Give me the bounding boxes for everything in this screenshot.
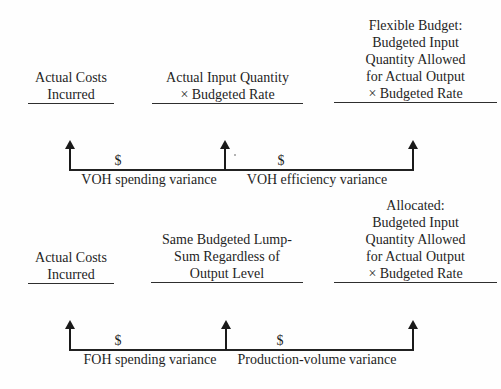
block-line: Incurred (28, 266, 114, 283)
block-line: Sum Regardless of (151, 248, 303, 265)
block-line: Allocated: (334, 197, 497, 214)
arrow-stem (412, 329, 414, 350)
block-line: × Budgeted Rate (334, 85, 497, 102)
block-line: Incurred (28, 86, 114, 103)
arrowhead (408, 320, 418, 329)
block-line: Actual Costs (28, 249, 114, 266)
actual-costs-block-foh: Actual Costs Incurred (28, 249, 114, 284)
block-line: for Actual Output (334, 68, 497, 85)
voh-bracket-line (69, 169, 414, 171)
flexible-budget-block: Flexible Budget: Budgeted Input Quantity… (334, 17, 497, 103)
arrow-stem (225, 329, 227, 350)
block-line: Quantity Allowed (334, 231, 497, 248)
dollar-sign: $ (115, 153, 122, 168)
dollar-sign: $ (277, 333, 284, 348)
block-line: × Budgeted Rate (334, 265, 497, 282)
up-arrow-icon (221, 320, 231, 350)
arrow-stem (412, 149, 414, 170)
production-volume-variance-label: Production-volume variance (237, 352, 396, 368)
block-line: Actual Costs (28, 69, 114, 86)
actual-input-quantity-block: Actual Input Quantity × Budgeted Rate (152, 69, 303, 104)
actual-costs-block-voh: Actual Costs Incurred (28, 69, 114, 104)
dollar-sign: $ (278, 153, 285, 168)
block-line: Budgeted Input (334, 214, 497, 231)
block-line: Same Budgeted Lump- (151, 231, 303, 248)
block-line: Actual Input Quantity (152, 69, 303, 86)
scan-speck (234, 154, 236, 156)
up-arrow-icon (408, 140, 418, 170)
arrowhead (221, 320, 231, 329)
allocated-block: Allocated: Budgeted Input Quantity Allow… (334, 197, 497, 283)
block-line: for Actual Output (334, 248, 497, 265)
arrow-stem (69, 329, 71, 350)
voh-efficiency-variance-label: VOH efficiency variance (247, 172, 387, 188)
voh-spending-variance-label: VOH spending variance (81, 172, 216, 188)
foh-spending-variance-label: FOH spending variance (84, 352, 217, 368)
up-arrow-icon (65, 140, 75, 170)
arrow-stem (224, 149, 226, 170)
block-line: × Budgeted Rate (152, 86, 303, 103)
up-arrow-icon (65, 320, 75, 350)
up-arrow-icon (220, 140, 230, 170)
block-line: Flexible Budget: (334, 17, 497, 34)
block-line: Quantity Allowed (334, 51, 497, 68)
dollar-sign: $ (115, 333, 122, 348)
variance-diagram: Actual Costs Incurred Actual Input Quant… (0, 0, 501, 389)
arrowhead (408, 140, 418, 149)
block-line: Output Level (151, 265, 303, 282)
arrowhead (65, 320, 75, 329)
lump-sum-block: Same Budgeted Lump- Sum Regardless of Ou… (151, 231, 303, 283)
foh-bracket-line (69, 349, 414, 351)
arrowhead (220, 140, 230, 149)
arrow-stem (69, 149, 71, 170)
arrowhead (65, 140, 75, 149)
up-arrow-icon (408, 320, 418, 350)
block-line: Budgeted Input (334, 34, 497, 51)
